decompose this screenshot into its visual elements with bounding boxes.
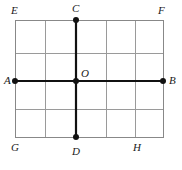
label-o: O [81,68,89,79]
point-o [73,78,79,84]
label-e: E [11,5,18,16]
figure-canvas [0,0,182,170]
label-a: A [4,75,11,86]
label-f: F [158,5,165,16]
label-b: B [169,75,176,86]
geometry-figure: ABCDOEFGH [0,0,182,170]
rectangle-border [15,20,163,137]
point-a [12,78,18,84]
point-c [73,17,79,23]
label-d: D [72,146,80,157]
point-dots [12,17,166,140]
label-c: C [72,3,79,14]
label-h: H [133,142,141,153]
point-b [160,78,166,84]
grid-lines [15,20,163,137]
bold-segments [15,20,163,137]
rectangle-outline [15,20,163,137]
label-g: G [11,142,19,153]
point-d [73,134,79,140]
